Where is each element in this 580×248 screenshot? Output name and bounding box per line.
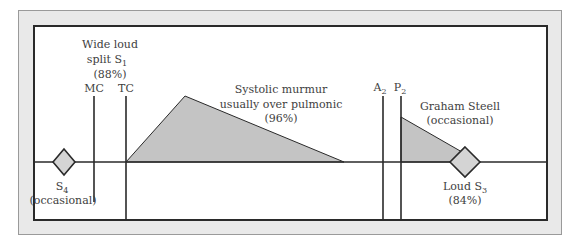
s3-percent: (84%)	[448, 194, 481, 207]
murmur-label-line2: usually over pulmonic	[220, 98, 343, 111]
murmur-percent: (96%)	[264, 112, 297, 125]
s3-label: Loud S3	[443, 180, 487, 195]
graham-steell-note: (occasional)	[426, 114, 493, 127]
murmur-label-line1: Systolic murmur	[235, 83, 328, 96]
s4-note: (occasional)	[29, 194, 96, 207]
s1-label-line1: Wide loud	[82, 38, 138, 51]
s1-label-line2: split S1	[87, 53, 127, 68]
s1-percent: (88%)	[93, 68, 126, 81]
graham-steell-label: Graham Steell	[420, 100, 501, 113]
tc-label: TC	[118, 82, 134, 95]
mc-label: MC	[84, 82, 104, 95]
phonocardiogram-diagram: Wide loud split S1 (88%) MC TC Systolic …	[0, 0, 580, 248]
